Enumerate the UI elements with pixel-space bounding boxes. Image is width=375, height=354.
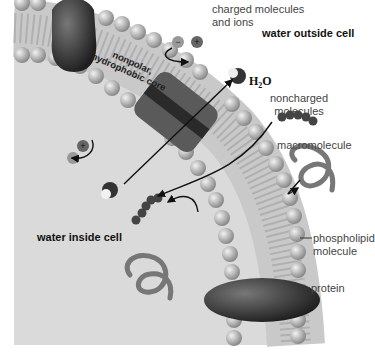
- protein-channel-top: [52, 0, 97, 72]
- label-h2o: H2O: [249, 74, 272, 90]
- svg-text:+: +: [80, 141, 85, 151]
- label-phospholipid-molecule: phospholipid molecule: [313, 232, 375, 258]
- label-macromolecule: macromolecule: [277, 139, 352, 152]
- label-water-inside: water inside cell: [37, 231, 122, 244]
- label-charged-molecules: charged molecules and ions: [212, 3, 304, 29]
- svg-text:+: +: [194, 37, 199, 47]
- label-protein: protein: [311, 282, 345, 295]
- label-water-outside: water outside cell: [262, 27, 354, 40]
- svg-text:−: −: [175, 37, 180, 47]
- label-noncharged-molecules: noncharged molecules: [270, 92, 328, 118]
- protein-bottom: [204, 278, 320, 322]
